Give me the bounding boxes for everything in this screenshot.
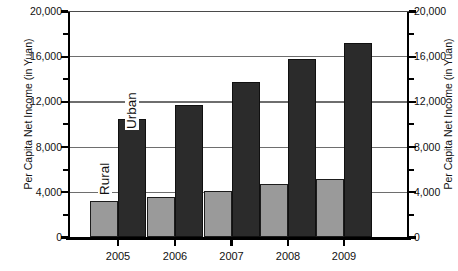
- axis-tick-minor: [409, 33, 414, 35]
- x-axis-tick: [343, 238, 345, 246]
- bar-rural-2008: [260, 184, 288, 238]
- x-axis-tick: [287, 238, 289, 246]
- axis-tick-minor: [63, 123, 68, 125]
- series-label-rural: Rural: [98, 162, 112, 196]
- x-tick-label: 2008: [276, 250, 300, 262]
- y-tick-label-left: 8,000: [36, 142, 62, 153]
- y-tick-label-right: 8,000: [414, 142, 440, 153]
- x-axis-tick: [174, 238, 176, 246]
- axis-tick-major: [409, 236, 416, 238]
- y-tick-label-right: 12,000: [414, 96, 446, 107]
- axis-tick-major: [61, 236, 68, 238]
- y-tick-label-left: 16,000: [30, 51, 62, 62]
- bar-urban-2006: [175, 105, 203, 238]
- bottom-text-artifact: [250, 263, 450, 271]
- x-tick-label: 2006: [163, 250, 187, 262]
- axis-tick-major: [61, 10, 68, 12]
- axis-tick-major: [409, 146, 416, 148]
- bar-urban-2009: [344, 43, 372, 237]
- y-axis-tick-labels-left: 04,0008,00012,00016,00020,000: [0, 0, 62, 271]
- x-tick-label: 2005: [106, 250, 130, 262]
- axis-tick-major: [409, 101, 416, 103]
- axis-tick-major: [409, 56, 416, 58]
- bar-rural-2005: [90, 201, 118, 238]
- y-tick-label-right: 4,000: [414, 187, 440, 198]
- y-tick-label-left: 20,000: [30, 6, 62, 17]
- series-label-urban: Urban: [125, 91, 139, 130]
- axis-tick-major: [61, 101, 68, 103]
- axis-tick-minor: [63, 169, 68, 171]
- y-tick-label-right: 16,000: [414, 51, 446, 62]
- x-tick-label: 2009: [332, 250, 356, 262]
- axis-tick-minor: [409, 214, 414, 216]
- bar-rural-2007: [204, 191, 232, 238]
- y-tick-label-right: 20,000: [414, 6, 446, 17]
- axis-tick-major: [61, 191, 68, 193]
- x-axis-tick: [117, 238, 119, 246]
- bar-rural-2006: [147, 197, 175, 238]
- axis-tick-minor: [63, 78, 68, 80]
- y-axis-tick-labels-right: 04,0008,00012,00016,00020,000: [414, 0, 458, 271]
- x-axis-tick: [230, 238, 232, 246]
- axis-tick-minor: [63, 33, 68, 35]
- axis-tick-major: [409, 10, 416, 12]
- bar-urban-2008: [288, 59, 316, 237]
- axis-tick-major: [409, 191, 416, 193]
- axis-tick-minor: [409, 123, 414, 125]
- y-tick-label-left: 4,000: [36, 187, 62, 198]
- y-tick-label-left: 12,000: [30, 96, 62, 107]
- bar-urban-2005: [118, 119, 146, 238]
- x-tick-label: 2007: [219, 250, 243, 262]
- bar-urban-2007: [232, 82, 260, 238]
- axis-tick-major: [61, 56, 68, 58]
- axis-tick-minor: [63, 214, 68, 216]
- axis-tick-minor: [409, 169, 414, 171]
- bar-rural-2009: [316, 179, 344, 237]
- axis-tick-minor: [409, 78, 414, 80]
- axis-tick-major: [61, 146, 68, 148]
